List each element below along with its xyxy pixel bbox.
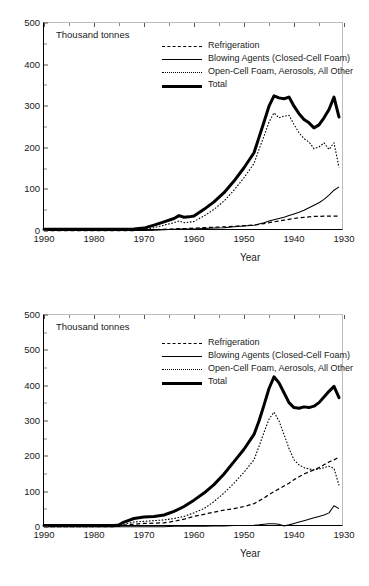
x-tick-mark bbox=[194, 23, 195, 27]
figure-sheet: Thousand tonnes RefrigerationBlowing Age… bbox=[0, 0, 369, 586]
x-tick-mark-minor bbox=[269, 315, 270, 318]
y-tick-mark-minor bbox=[44, 474, 47, 475]
series-line-dashed bbox=[44, 457, 339, 527]
y-tick-mark bbox=[44, 491, 48, 492]
y-tick-mark-minor bbox=[44, 509, 47, 510]
plot-area-bottom: Thousand tonnes RefrigerationBlowing Age… bbox=[43, 314, 343, 526]
y-tick-mark-minor bbox=[44, 403, 47, 404]
series-line-thin-solid bbox=[44, 187, 339, 231]
y-tick-mark-minor bbox=[44, 168, 47, 169]
series-line-thick-solid bbox=[44, 96, 339, 230]
x-tick-label: 1940 bbox=[283, 525, 304, 540]
x-tick-label: 1980 bbox=[83, 525, 104, 540]
series-line-thick-solid bbox=[44, 377, 339, 526]
series-line-dotted bbox=[44, 113, 339, 230]
x-tick-label: 1930 bbox=[333, 229, 354, 244]
y-tick-label: 100 bbox=[24, 487, 44, 497]
y-tick-label: 400 bbox=[24, 381, 44, 391]
y-tick-label: 200 bbox=[24, 452, 44, 462]
y-tick-label: 100 bbox=[24, 185, 44, 195]
y-tick-label: 300 bbox=[24, 416, 44, 426]
x-tick-label: 1940 bbox=[283, 229, 304, 244]
x-tick-mark-minor bbox=[169, 23, 170, 26]
x-tick-mark-minor bbox=[319, 23, 320, 26]
y-tick-label: 500 bbox=[24, 18, 44, 28]
y-tick-label: 200 bbox=[24, 143, 44, 153]
y-tick-label: 500 bbox=[24, 310, 44, 320]
x-tick-label: 1930 bbox=[333, 525, 354, 540]
x-tick-mark bbox=[294, 23, 295, 27]
x-tick-mark bbox=[94, 23, 95, 27]
x-axis-title-top: Year bbox=[240, 252, 260, 263]
x-tick-mark bbox=[344, 315, 345, 319]
y-tick-mark bbox=[44, 189, 48, 190]
x-tick-label: 1980 bbox=[83, 229, 104, 244]
y-tick-mark bbox=[44, 147, 48, 148]
x-tick-mark bbox=[194, 315, 195, 319]
x-tick-label: 1990 bbox=[33, 229, 54, 244]
x-tick-mark bbox=[44, 315, 45, 319]
y-tick-mark-minor bbox=[44, 368, 47, 369]
x-tick-label: 1960 bbox=[183, 525, 204, 540]
y-tick-mark-minor bbox=[44, 43, 47, 44]
x-axis-title-bottom: Year bbox=[240, 548, 260, 559]
x-tick-mark bbox=[244, 23, 245, 27]
y-tick-mark bbox=[44, 456, 48, 457]
x-tick-mark-minor bbox=[69, 23, 70, 26]
series-line-thin-solid bbox=[44, 506, 339, 527]
series-lines-top bbox=[44, 23, 344, 231]
chart-panel-top: Thousand tonnes RefrigerationBlowing Age… bbox=[0, 0, 369, 290]
y-tick-label: 300 bbox=[24, 101, 44, 111]
x-tick-mark bbox=[144, 315, 145, 319]
y-tick-mark bbox=[44, 350, 48, 351]
x-tick-label: 1970 bbox=[133, 525, 154, 540]
plot-area-top: Thousand tonnes RefrigerationBlowing Age… bbox=[43, 22, 343, 230]
y-tick-mark bbox=[44, 64, 48, 65]
y-tick-label: 500 bbox=[24, 346, 44, 356]
x-tick-mark-minor bbox=[319, 315, 320, 318]
x-tick-mark-minor bbox=[219, 315, 220, 318]
x-tick-mark bbox=[294, 315, 295, 319]
series-lines-bottom bbox=[44, 315, 344, 527]
x-tick-mark bbox=[244, 315, 245, 319]
x-tick-mark bbox=[44, 23, 45, 27]
y-tick-mark-minor bbox=[44, 210, 47, 211]
x-tick-mark bbox=[144, 23, 145, 27]
y-tick-mark-minor bbox=[44, 332, 47, 333]
y-tick-mark bbox=[44, 106, 48, 107]
x-tick-mark-minor bbox=[119, 23, 120, 26]
y-tick-mark bbox=[44, 421, 48, 422]
x-tick-mark-minor bbox=[169, 315, 170, 318]
chart-panel-bottom: Thousand tonnes RefrigerationBlowing Age… bbox=[0, 290, 369, 586]
x-tick-label: 1960 bbox=[183, 229, 204, 244]
y-tick-label: 400 bbox=[24, 60, 44, 70]
x-tick-mark bbox=[344, 23, 345, 27]
x-tick-label: 1990 bbox=[33, 525, 54, 540]
x-tick-mark-minor bbox=[219, 23, 220, 26]
series-line-dotted bbox=[44, 412, 339, 526]
x-tick-mark-minor bbox=[119, 315, 120, 318]
x-tick-mark-minor bbox=[69, 315, 70, 318]
x-tick-label: 1950 bbox=[233, 525, 254, 540]
y-tick-mark-minor bbox=[44, 85, 47, 86]
y-tick-mark-minor bbox=[44, 127, 47, 128]
y-tick-mark bbox=[44, 385, 48, 386]
x-tick-label: 1950 bbox=[233, 229, 254, 244]
x-tick-mark bbox=[94, 315, 95, 319]
y-tick-mark-minor bbox=[44, 438, 47, 439]
x-tick-label: 1970 bbox=[133, 229, 154, 244]
x-tick-mark-minor bbox=[269, 23, 270, 26]
